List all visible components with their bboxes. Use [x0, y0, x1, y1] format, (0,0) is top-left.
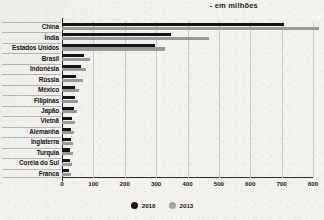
bar-2013 — [62, 173, 71, 176]
bar-2013 — [62, 152, 73, 155]
legend-item-2018[interactable]: 2018 — [131, 202, 156, 209]
category-label-column: ChinaÍndiaEstados UnidosBrasilIndonésiaR… — [0, 21, 62, 178]
bar-2013 — [62, 131, 74, 134]
bar-2018 — [62, 169, 69, 172]
bar-2018 — [62, 96, 75, 99]
category-label: Turquia — [37, 148, 59, 155]
category-label: França — [39, 169, 59, 176]
gridline — [250, 21, 251, 178]
category-label: Índia — [45, 33, 59, 40]
category-label: México — [38, 86, 59, 93]
category-label: Estados Unidos — [12, 44, 59, 51]
category-label: Coréia do Sul — [19, 159, 59, 166]
legend-label: 2013 — [180, 202, 194, 209]
label-leader-line — [2, 177, 61, 178]
category-label: Indonésia — [30, 65, 59, 72]
x-tick-label: 700 — [276, 180, 286, 187]
bar-2013 — [62, 68, 86, 71]
bar-2018 — [62, 117, 72, 120]
legend-swatch-circle-icon — [131, 202, 138, 209]
bar-2013 — [62, 89, 79, 92]
bar-2013 — [62, 27, 319, 30]
bar-2013 — [62, 142, 73, 145]
category-label: Filipinas — [34, 96, 59, 103]
bar-2018 — [62, 148, 70, 151]
bar-2013 — [62, 163, 72, 166]
gridline — [156, 21, 157, 178]
bar-2018 — [62, 54, 84, 57]
bar-2018 — [62, 138, 71, 141]
bar-2018 — [62, 65, 81, 68]
bar-2018 — [62, 33, 171, 36]
bar-2018 — [62, 44, 155, 47]
x-tick-label: 100 — [88, 180, 98, 187]
bar-2013 — [62, 58, 90, 61]
bar-2013 — [62, 47, 165, 50]
bar-2018 — [62, 23, 284, 26]
bar-2013 — [62, 37, 209, 40]
category-label: Japão — [41, 106, 59, 113]
x-tick-label: 600 — [245, 180, 255, 187]
gridline — [313, 21, 314, 178]
bar-chart: - em milhões ChinaÍndiaEstados UnidosBra… — [0, 0, 324, 220]
bar-2013 — [62, 100, 78, 103]
bar-2018 — [62, 159, 70, 162]
x-tick-label: 300 — [151, 180, 161, 187]
x-tick-label: 800 — [308, 180, 318, 187]
x-tick-label: 400 — [182, 180, 192, 187]
category-label: China — [42, 23, 59, 30]
x-tick-label: 500 — [214, 180, 224, 187]
bar-2013 — [62, 121, 75, 124]
gridline — [282, 21, 283, 178]
category-label: Inglaterra — [31, 138, 59, 145]
plot-area — [62, 21, 313, 178]
bar-2018 — [62, 86, 75, 89]
category-label: Rússia — [39, 75, 59, 82]
bar-2018 — [62, 128, 71, 131]
bar-2018 — [62, 75, 76, 78]
bar-2013 — [62, 110, 77, 113]
x-axis-tick-labels: 0100200300400500600700800 — [0, 180, 324, 192]
category-label: Vietnã — [41, 117, 59, 124]
chart-legend: 2018 2013 — [0, 202, 324, 209]
x-tick-label: 0 — [60, 180, 63, 187]
gridline — [219, 21, 220, 178]
legend-swatch-circle-icon — [169, 202, 176, 209]
bar-2013 — [62, 79, 83, 82]
gridline — [188, 21, 189, 178]
category-label: Alemanha — [29, 127, 59, 134]
bar-2018 — [62, 107, 74, 110]
legend-label: 2018 — [142, 202, 156, 209]
category-label: Brasil — [42, 54, 59, 61]
x-tick-label: 200 — [120, 180, 130, 187]
legend-item-2013[interactable]: 2013 — [169, 202, 194, 209]
chart-title: - em milhões — [0, 1, 316, 10]
